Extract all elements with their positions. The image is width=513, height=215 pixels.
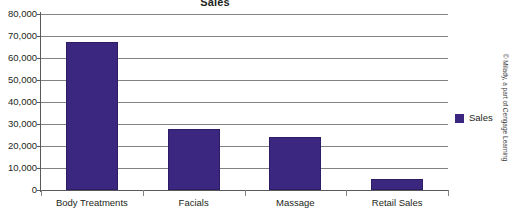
- bar-slot: [245, 14, 347, 190]
- bar: [371, 179, 423, 190]
- category-tick-mark: [346, 190, 347, 196]
- x-axis-category-label: Body Treatments: [41, 197, 143, 209]
- plot-area: [41, 14, 448, 190]
- legend-swatch-sales: [455, 114, 464, 123]
- y-axis-tick-labels: 80,00070,00060,00050,00040,00030,00020,0…: [0, 14, 37, 190]
- bar: [66, 42, 118, 191]
- y-axis-tick-label: 60,000: [0, 53, 37, 63]
- x-axis-category-label: Facials: [143, 197, 245, 209]
- y-axis-tick-label: 0: [0, 185, 37, 195]
- category-tick-mark: [143, 190, 144, 196]
- y-axis-tick-label: 40,000: [0, 97, 37, 107]
- y-axis-tick-label: 30,000: [0, 119, 37, 129]
- bar: [168, 129, 220, 190]
- y-axis-tick-label: 80,000: [0, 9, 37, 19]
- category-tick-mark: [448, 190, 449, 196]
- chart-title: Sales: [0, 0, 430, 8]
- y-axis-tick-label: 50,000: [0, 75, 37, 85]
- bar-slot: [346, 14, 448, 190]
- y-axis-tick-label: 10,000: [0, 163, 37, 173]
- legend-label-sales: Sales: [469, 113, 493, 123]
- x-axis-category-label: Retail Sales: [346, 197, 448, 209]
- x-axis-category-labels: Body TreatmentsFacialsMassageRetail Sale…: [41, 197, 448, 213]
- bar-chart-figure: Sales 80,00070,00060,00050,00040,00030,0…: [0, 0, 513, 215]
- bar-slot: [41, 14, 143, 190]
- bar: [269, 137, 321, 190]
- bar-slot: [143, 14, 245, 190]
- y-axis-tick-label: 70,000: [0, 31, 37, 41]
- chart-legend: Sales: [455, 113, 493, 123]
- x-axis-category-label: Massage: [245, 197, 347, 209]
- copyright-attribution: © Milady, a part of Cengage Learning: [500, 0, 512, 215]
- category-tick-mark: [41, 190, 42, 196]
- y-axis-tick-label: 20,000: [0, 141, 37, 151]
- category-tick-mark: [245, 190, 246, 196]
- copyright-attribution-text: © Milady, a part of Cengage Learning: [503, 54, 510, 162]
